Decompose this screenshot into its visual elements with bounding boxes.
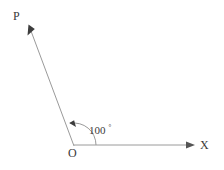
ray-ox-group	[74, 142, 195, 149]
ray-op-group	[28, 25, 75, 147]
degree-symbol-icon: °	[109, 123, 112, 131]
ray-op-line	[31, 31, 74, 146]
angle-measure-annotation: 100°	[89, 124, 111, 136]
angle-diagram-canvas	[0, 0, 224, 170]
ray-op-arrowhead-icon	[28, 25, 35, 36]
ray-ox-arrowhead-icon	[186, 142, 195, 149]
axis-label-x: X	[200, 139, 209, 151]
angle-measure-value: 100	[89, 124, 106, 136]
geometry-figure: P X O 100°	[0, 0, 224, 170]
vertex-label-o: O	[68, 147, 77, 159]
point-label-p: P	[13, 10, 20, 22]
